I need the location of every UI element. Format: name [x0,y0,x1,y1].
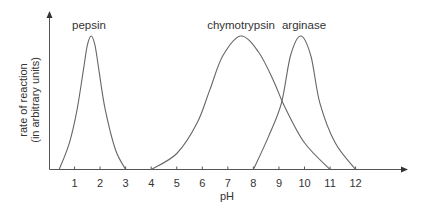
x-tick-label: 12 [349,177,361,189]
x-tick-label: 7 [225,177,231,189]
x-tick-label: 3 [123,177,129,189]
curve-arginase [253,36,355,170]
x-tick-label: 4 [148,177,154,189]
x-tick-label: 10 [298,177,310,189]
x-tick-label: 9 [276,177,282,189]
x-axis-arrow-icon [401,167,408,173]
axes: 123456789101112 [47,11,409,189]
x-tick-label: 11 [324,177,335,189]
x-tick-label: 8 [250,177,256,189]
x-tick-label: 1 [71,177,77,189]
label-pepsin: pepsin [72,19,106,31]
curves [59,36,355,170]
y-axis-title-line1: rate of reaction [17,63,29,136]
enzyme-ph-chart: 123456789101112 pepsin chymotrypsin argi… [0,0,421,210]
label-arginase: arginase [282,19,326,31]
curve-chymotrypsin [151,36,330,170]
y-axis-arrow-icon [47,11,53,18]
x-tick-label: 6 [199,177,205,189]
label-chymotrypsin: chymotrypsin [207,19,275,31]
x-axis-title: pH [220,190,234,202]
curve-pepsin [59,36,126,170]
x-tick-label: 5 [174,177,180,189]
x-tick-label: 2 [97,177,103,189]
y-axis-title-line2: (in arbitrary units) [29,57,41,143]
